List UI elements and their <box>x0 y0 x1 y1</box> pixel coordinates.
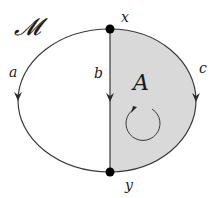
edge-a-label: a <box>9 64 17 80</box>
vertex-y <box>106 168 115 177</box>
vertex-x-label: x <box>121 9 129 25</box>
region-a-shading <box>110 29 196 172</box>
manifold-diagram: 𝓜 x y a b c A <box>0 0 217 198</box>
edge-c-label: c <box>199 60 207 76</box>
edge-a <box>18 29 110 172</box>
edge-b-label: b <box>94 65 103 81</box>
manifold-label: 𝓜 <box>14 13 48 41</box>
region-a-label: A <box>131 70 149 95</box>
vertex-x <box>106 25 115 34</box>
vertex-y-label: y <box>124 177 134 193</box>
